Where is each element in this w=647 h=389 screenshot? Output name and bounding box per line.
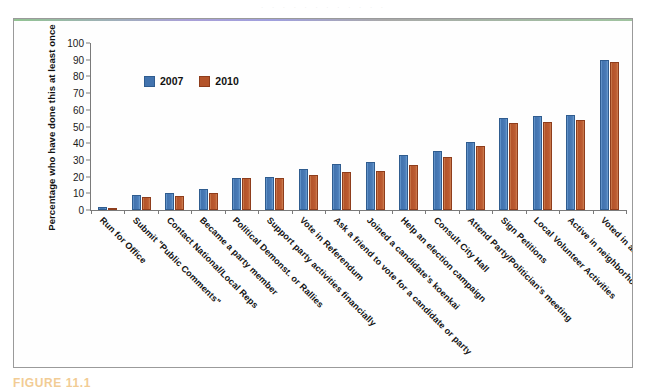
- y-axis-title: Percentage who have done this at least o…: [44, 43, 58, 211]
- x-axis-tick-mark: [325, 210, 326, 214]
- bar-2010: [443, 157, 452, 210]
- x-axis-tick-mark: [258, 210, 259, 214]
- bar-2010: [275, 178, 284, 210]
- bar-2010: [476, 146, 485, 210]
- x-axis-tick-mark: [593, 210, 594, 214]
- x-axis-tick-mark: [492, 210, 493, 214]
- bar-2010: [108, 208, 117, 210]
- bar-group: [91, 43, 124, 210]
- bar-group: [191, 43, 224, 210]
- bar-2007: [466, 142, 475, 210]
- y-axis-tick-mark: [86, 159, 90, 160]
- bar-2010: [610, 62, 619, 210]
- bar-2007: [132, 195, 141, 210]
- bar-2010: [576, 120, 585, 210]
- x-axis-tick-mark: [559, 210, 560, 214]
- x-axis-tick-mark: [459, 210, 460, 214]
- bar-group: [392, 43, 425, 210]
- x-axis-tick-mark: [359, 210, 360, 214]
- x-axis-category-label: Vote in Referendum: [298, 215, 366, 283]
- legend-swatch-2010-icon: [199, 76, 210, 87]
- bar-2007: [399, 155, 408, 210]
- bar-2007: [366, 162, 375, 210]
- bar-2007: [165, 193, 174, 210]
- x-axis-tick-mark: [225, 210, 226, 214]
- legend-swatch-2007-icon: [144, 76, 155, 87]
- y-axis-tick-mark: [86, 43, 90, 44]
- bar-2007: [98, 207, 107, 210]
- y-axis-tick-mark: [86, 126, 90, 127]
- scan-bleed-through-text: · · · · · · · · · · · ·: [0, 0, 647, 16]
- y-axis-tick-mark: [86, 143, 90, 144]
- bar-2010: [142, 197, 151, 210]
- bar-group: [492, 43, 525, 210]
- x-axis-tick-mark: [158, 210, 159, 214]
- plot-area: 0102030405060708090100: [91, 43, 626, 210]
- x-axis-tick-mark: [292, 210, 293, 214]
- bar-group: [425, 43, 458, 210]
- bar-group: [526, 43, 559, 210]
- bar-2010: [376, 171, 385, 210]
- y-axis-tick-mark: [86, 193, 90, 194]
- legend-label-2007: 2007: [160, 75, 183, 87]
- bar-2010: [509, 123, 518, 210]
- x-axis-labels: Run for OfficeSubmit "Public Comments"Co…: [91, 215, 626, 365]
- bar-2010: [342, 172, 351, 210]
- figure-frame: Percentage who have done this at least o…: [13, 18, 633, 368]
- figure-caption: FIGURE 11.1: [13, 376, 91, 389]
- x-axis-tick-mark: [626, 210, 627, 214]
- bar-2007: [566, 115, 575, 210]
- y-axis-tick-mark: [86, 109, 90, 110]
- bar-2007: [600, 60, 609, 210]
- bar-2010: [543, 122, 552, 211]
- bar-2010: [175, 196, 184, 210]
- x-axis-tick-mark: [425, 210, 426, 214]
- bar-2007: [433, 151, 442, 210]
- x-axis-tick-mark: [124, 210, 125, 214]
- legend-label-2010: 2010: [215, 75, 238, 87]
- bar-group: [325, 43, 358, 210]
- bar-group: [258, 43, 291, 210]
- bar-group: [593, 43, 626, 210]
- chart-legend: 2007 2010: [144, 75, 239, 87]
- bar-group: [292, 43, 325, 210]
- x-axis-tick-mark: [191, 210, 192, 214]
- bar-2007: [232, 178, 241, 210]
- bar-group: [459, 43, 492, 210]
- x-axis-tick-mark: [91, 210, 92, 214]
- legend-item-2010: 2010: [199, 75, 238, 87]
- y-axis-tick-mark: [86, 93, 90, 94]
- y-axis-tick-mark: [86, 76, 90, 77]
- bar-group: [225, 43, 258, 210]
- bar-2010: [209, 193, 218, 210]
- bar-group: [158, 43, 191, 210]
- bar-2007: [299, 169, 308, 210]
- x-axis-tick-mark: [526, 210, 527, 214]
- bar-2007: [265, 177, 274, 210]
- x-axis-tick-mark: [392, 210, 393, 214]
- bar-group: [124, 43, 157, 210]
- y-axis-tick-mark: [86, 176, 90, 177]
- y-axis-title-text: Percentage who have done this at least o…: [46, 24, 57, 231]
- y-axis-tick-mark: [86, 210, 90, 211]
- bar-2007: [499, 118, 508, 210]
- bar-group: [359, 43, 392, 210]
- bar-2010: [309, 175, 318, 210]
- bar-2010: [242, 178, 251, 210]
- bar-2007: [199, 189, 208, 210]
- bar-group: [559, 43, 592, 210]
- bar-2007: [533, 116, 542, 210]
- bar-2007: [332, 164, 341, 210]
- frame-top-rule: [14, 19, 632, 21]
- bar-2010: [409, 165, 418, 210]
- y-axis-tick-mark: [86, 59, 90, 60]
- legend-item-2007: 2007: [144, 75, 183, 87]
